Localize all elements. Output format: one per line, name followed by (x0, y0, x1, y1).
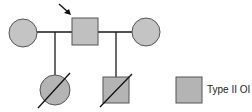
pedigree-diagram (0, 0, 252, 112)
male-proband (72, 18, 98, 45)
legend-symbol-affected (176, 77, 202, 103)
female-mother-2 (132, 18, 160, 46)
female-mother-1 (9, 19, 37, 47)
proband-arrow-icon (59, 4, 71, 15)
legend-label: Type II OI (207, 84, 250, 95)
